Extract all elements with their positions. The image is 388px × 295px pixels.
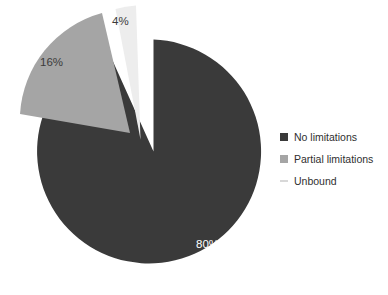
pie-value-label-partial-limitations: 16% xyxy=(40,56,63,68)
legend-item-unbound[interactable]: Unbound xyxy=(280,170,388,192)
legend-swatch-icon-no-limitations xyxy=(280,133,288,141)
legend-item-partial-limitations[interactable]: Partial limitations xyxy=(280,148,388,170)
legend-swatch-icon-partial-limitations xyxy=(280,155,288,163)
pie-value-label-no-limitations: 80% xyxy=(196,238,219,250)
legend-label-partial-limitations: Partial limitations xyxy=(294,154,373,165)
legend-item-no-limitations[interactable]: No limitations xyxy=(280,126,388,148)
pie-value-label-unbound: 4% xyxy=(112,15,129,27)
pie-slice-partial-limitations[interactable] xyxy=(20,13,130,133)
pie-chart-figure: 80% 16% 4% No limitations Partial limita… xyxy=(0,0,388,295)
chart-legend: No limitations Partial limitations Unbou… xyxy=(280,126,388,192)
legend-swatch-icon-unbound xyxy=(280,180,288,182)
legend-label-no-limitations: No limitations xyxy=(294,132,357,143)
legend-label-unbound: Unbound xyxy=(294,176,337,187)
